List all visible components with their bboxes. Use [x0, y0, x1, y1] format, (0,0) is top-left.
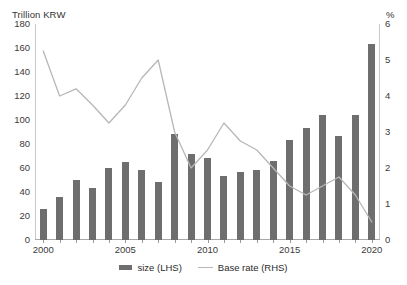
right-tick-5: 5 [385, 54, 405, 65]
line-series-base-rate [35, 24, 380, 240]
chart-legend: size (LHS) Base rate (RHS) [0, 262, 407, 273]
left-tick-60: 60 [4, 162, 30, 173]
x-axis-tick [191, 240, 192, 243]
left-tick-160: 160 [4, 42, 30, 53]
right-tick-6: 6 [385, 18, 405, 29]
x-tick-2015: 2015 [270, 244, 310, 255]
left-tick-100: 100 [4, 114, 30, 125]
x-axis-tick [240, 240, 241, 243]
x-axis-tick [142, 240, 143, 243]
x-axis-tick [290, 240, 291, 243]
left-tick-120: 120 [4, 90, 30, 101]
line-swatch-icon [198, 267, 213, 268]
x-axis-tick [372, 240, 373, 243]
chart-container: Trillion KRW % 180160140120100806040200 … [0, 0, 407, 285]
x-axis-tick [125, 240, 126, 243]
x-axis-tick [355, 240, 356, 243]
x-axis-tick [257, 240, 258, 243]
x-axis-tick [273, 240, 274, 243]
x-axis-tick [208, 240, 209, 243]
left-tick-80: 80 [4, 138, 30, 149]
x-axis-tick [306, 240, 307, 243]
left-tick-20: 20 [4, 210, 30, 221]
x-axis-tick [60, 240, 61, 243]
x-axis-tick [323, 240, 324, 243]
x-axis-tick [175, 240, 176, 243]
left-tick-180: 180 [4, 18, 30, 29]
legend-label-size: size (LHS) [137, 262, 181, 273]
x-axis-tick [43, 240, 44, 243]
x-tick-2005: 2005 [105, 244, 145, 255]
x-tick-2020: 2020 [352, 244, 392, 255]
legend-label-base-rate: Base rate (RHS) [218, 262, 288, 273]
x-axis-tick [76, 240, 77, 243]
right-tick-4: 4 [385, 90, 405, 101]
legend-item-base-rate: Base rate (RHS) [198, 262, 288, 273]
plot-area [35, 24, 380, 240]
left-tick-140: 140 [4, 66, 30, 77]
x-axis-tick [339, 240, 340, 243]
legend-item-size: size (LHS) [119, 262, 181, 273]
x-axis-tick [109, 240, 110, 243]
right-tick-2: 2 [385, 162, 405, 173]
x-axis-tick [224, 240, 225, 243]
x-tick-2000: 2000 [23, 244, 63, 255]
x-axis-tick [93, 240, 94, 243]
x-tick-2010: 2010 [188, 244, 228, 255]
right-tick-1: 1 [385, 198, 405, 209]
left-tick-40: 40 [4, 186, 30, 197]
right-tick-3: 3 [385, 126, 405, 137]
bar-swatch-icon [119, 265, 132, 270]
x-axis-tick [158, 240, 159, 243]
